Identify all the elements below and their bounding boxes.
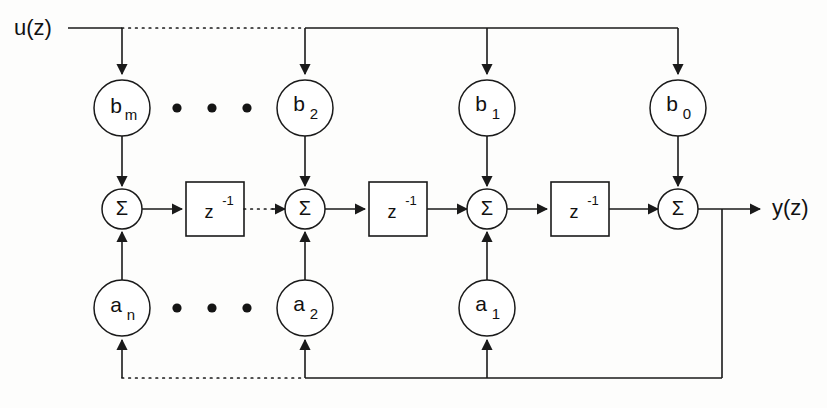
signal-flow-diagram: b m b 2 b 1 b 0 [0, 0, 827, 408]
gain-label-a2-base: a [293, 292, 305, 315]
summer-node-3: Σ [467, 189, 507, 229]
gain-label-b0-sub: 0 [683, 105, 691, 122]
bottom-ellipsis [172, 303, 251, 312]
summer-3-label: Σ [481, 197, 493, 219]
delay-1-exponent: -1 [222, 193, 234, 208]
delay-3-exponent: -1 [587, 193, 599, 208]
summer-1-label: Σ [116, 197, 128, 219]
delay-block-1: z -1 [186, 182, 244, 236]
gain-node-a1: a 1 [459, 280, 515, 336]
gain-label-b0-base: b [666, 92, 678, 115]
gain-node-bm: b m [94, 80, 150, 136]
delay-block-2: z -1 [369, 182, 427, 236]
delay-2-base: z [388, 202, 397, 222]
gain-node-an: a n [94, 280, 150, 336]
gain-node-a2: a 2 [277, 280, 333, 336]
gain-label-a2-sub: 2 [310, 305, 318, 322]
gain-node-b2: b 2 [277, 80, 333, 136]
gain-label-a1-base: a [475, 292, 487, 315]
gain-label-a1-sub: 1 [492, 305, 500, 322]
output-signal-label: y(z) [772, 195, 809, 220]
delay-block-3: z -1 [551, 182, 609, 236]
summer-2-label: Σ [299, 197, 311, 219]
top-ellipsis [172, 103, 251, 112]
gain-node-b1: b 1 [459, 80, 515, 136]
delay-1-base: z [205, 202, 214, 222]
summer-node-4: Σ [658, 189, 698, 229]
summer-node-1: Σ [102, 189, 142, 229]
gain-label-bm-sub: m [125, 106, 138, 123]
gain-label-b1-base: b [475, 92, 487, 115]
gain-label-b1-sub: 1 [492, 105, 500, 122]
gain-label-bm-base: b [110, 94, 122, 117]
delay-2-exponent: -1 [405, 193, 417, 208]
summer-node-2: Σ [285, 189, 325, 229]
diagram-canvas: b m b 2 b 1 b 0 [0, 0, 827, 408]
gain-label-b2-base: b [293, 92, 305, 115]
gain-label-b2-sub: 2 [310, 105, 318, 122]
input-signal-label: u(z) [14, 15, 52, 40]
gain-label-an-sub: n [127, 306, 135, 323]
delay-3-base: z [570, 202, 579, 222]
gain-label-an-base: a [110, 293, 122, 316]
summer-4-label: Σ [672, 197, 684, 219]
gain-node-b0: b 0 [650, 80, 706, 136]
